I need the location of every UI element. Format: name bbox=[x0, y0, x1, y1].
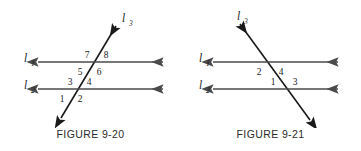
line-label-l1-subscript: 1 bbox=[206, 59, 210, 68]
figure-9-20-panel: l 1 l 2 l 3 7 8 5 6 3 4 1 2 FIGURE 9-20 bbox=[0, 0, 181, 151]
angle-label-7: 7 bbox=[85, 50, 90, 60]
angle-label-3: 3 bbox=[68, 77, 73, 87]
figure-9-20-diagram: l 1 l 2 l 3 7 8 5 6 3 4 1 2 bbox=[0, 0, 181, 128]
line-l3 bbox=[240, 24, 310, 120]
line-label-l1: l bbox=[24, 52, 27, 64]
figure-9-21-caption: FIGURE 9-21 bbox=[180, 128, 361, 140]
line-label-l2: l bbox=[24, 79, 27, 91]
angle-label-2: 2 bbox=[78, 94, 83, 104]
angle-label-1: 1 bbox=[60, 94, 65, 104]
angle-label-2: 2 bbox=[257, 67, 262, 77]
line-label-l1-subscript: 1 bbox=[31, 59, 35, 68]
figures-container: l 1 l 2 l 3 7 8 5 6 3 4 1 2 FIGURE 9-20 bbox=[0, 0, 361, 151]
line-l3 bbox=[61, 26, 116, 118]
line-label-l3: l bbox=[237, 10, 240, 22]
line-label-l3-subscript: 3 bbox=[243, 17, 248, 26]
angle-label-4: 4 bbox=[87, 77, 92, 87]
line-label-l3-subscript: 3 bbox=[128, 19, 133, 28]
angle-label-1: 1 bbox=[271, 77, 276, 87]
figure-9-20-caption: FIGURE 9-20 bbox=[0, 128, 181, 140]
line-label-l2: l bbox=[199, 79, 202, 91]
angle-label-3: 3 bbox=[293, 77, 298, 87]
angle-label-5: 5 bbox=[78, 67, 83, 77]
angle-label-8: 8 bbox=[104, 50, 109, 60]
angle-label-6: 6 bbox=[97, 67, 102, 77]
figure-9-21-diagram: l 1 l 2 l 3 2 4 1 3 bbox=[180, 0, 361, 128]
line-label-l2-subscript: 2 bbox=[206, 86, 210, 95]
angle-label-4: 4 bbox=[279, 67, 284, 77]
line-label-l2-subscript: 2 bbox=[31, 86, 35, 95]
line-label-l1: l bbox=[199, 52, 202, 64]
line-label-l3: l bbox=[122, 12, 125, 24]
figure-9-21-panel: l 1 l 2 l 3 2 4 1 3 FIGURE 9-21 bbox=[180, 0, 361, 151]
